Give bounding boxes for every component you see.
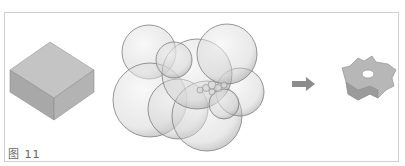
solid-block-figure bbox=[6, 40, 96, 122]
arrow-right-icon bbox=[292, 77, 316, 91]
result-part-figure bbox=[336, 54, 400, 104]
bubble-cluster-figure bbox=[112, 12, 272, 162]
figure-caption: 图 11 bbox=[8, 145, 41, 161]
